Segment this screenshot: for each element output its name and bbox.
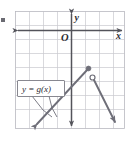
callout-label: y = g(x) [21,84,51,94]
x-axis-label: x [115,30,121,41]
closed-endpoint-dot [86,66,91,71]
corner-tick-mark [1,18,5,22]
coordinate-graph: y = g(x) y x O [0,0,136,143]
origin-label: O [61,32,69,43]
figure-container: y = g(x) y x O [0,0,136,143]
y-axis-label: y [74,12,80,23]
open-endpoint-circle [90,75,95,80]
plot-background [16,12,125,129]
